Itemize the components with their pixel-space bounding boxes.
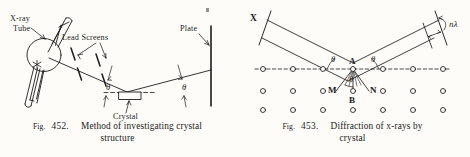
label-theta-right: θ [371,54,375,64]
atom [321,108,326,113]
label-point-m: M [328,85,337,95]
atom [351,108,356,113]
caption-line1: Diffraction of x-rays by [331,121,423,131]
leader-lead-screens [78,43,106,59]
lead-screen-2 [96,54,106,86]
reflected-beam [127,70,211,92]
leader-xray-tube [31,28,45,39]
label-theta-reflected: θ [182,82,186,92]
label-theta-lower: θ [349,74,353,84]
leader-n-lambda [439,16,446,30]
figure-page: X-ray Tube Lead Screens Plate Crystal θ … [0,0,470,157]
caption-fig-number: 452. [52,121,69,131]
caption-fig-number: 453. [301,121,318,131]
atom [381,67,386,72]
atom [441,108,446,113]
atom [291,108,296,113]
caption-figure-452: Fig.452.Method of investigating crystal … [0,121,235,144]
label-n-lambda: nλ [449,19,458,29]
label-point-a: A [349,56,356,66]
atom [291,67,296,72]
label-point-b: B [349,95,355,105]
label-x-beam: X [250,13,257,23]
atom [381,108,386,113]
figure-452: X-ray Tube Lead Screens Plate Crystal θ … [0,0,235,157]
caption-line2: crystal [235,133,470,145]
label-theta-left: θ [331,54,335,64]
label-crystal: Crystal [113,112,138,121]
atom [261,108,266,113]
figure-453: X nλ A B M N θ θ θ Fig.453.Diffraction o… [235,0,470,157]
atom [291,89,296,94]
caption-fig-word: Fig. [282,122,295,131]
atom [261,89,266,94]
atom [261,67,266,72]
atom [381,89,386,94]
atom-b [351,89,356,94]
incident-beam [49,58,127,92]
lead-screen-1 [71,48,82,80]
caption-figure-453: Fig.453.Diffraction of x-rays by crystal [235,121,470,144]
scan-artifact-dot [206,8,209,12]
path-difference-ticks [429,30,441,38]
label-theta-incident: θ [106,82,110,92]
atom [321,67,326,72]
xray-tube-cathode-legs [25,67,44,107]
crystal-block [119,92,141,100]
atom [411,89,416,94]
caption-line1: Method of investigating crystal [81,121,202,131]
label-point-n: N [370,85,377,95]
label-xray-tube-line2: Tube [13,24,30,33]
figure-452-drawing [0,0,235,125]
atom-a [351,67,356,72]
atom [321,89,326,94]
label-xray-tube-line1: X-ray [10,14,30,23]
atom [411,108,416,113]
atom [441,67,446,72]
caption-fig-word: Fig. [33,122,46,131]
label-lead-screens: Lead Screens [62,33,108,42]
atom [411,67,416,72]
incident-ray-upper [267,20,353,63]
leader-plate [199,34,209,45]
caption-line2: structure [0,133,235,145]
label-plate: Plate [180,24,197,33]
atom [441,89,446,94]
